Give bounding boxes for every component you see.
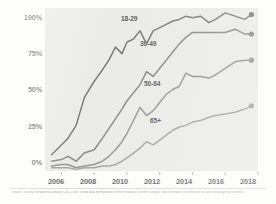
series-lines-group: [52, 13, 252, 169]
series-endpoint-30-49: [249, 31, 254, 36]
series-line-18-29: [52, 13, 252, 155]
series-endpoint-dots-group: [249, 12, 254, 108]
series-endpoint-65-plus: [249, 103, 254, 108]
series-line-30-49: [52, 29, 252, 161]
chart-figure: 100% 75% 50% 25% 0% 2006 2008 2010 2012 …: [0, 0, 276, 204]
series-endpoint-18-29: [249, 12, 254, 17]
series-line-65-plus: [52, 106, 252, 170]
footnote-divider: [10, 188, 266, 189]
chart-plot-svg: [0, 0, 276, 204]
series-endpoint-50-64: [249, 58, 254, 63]
footnote-text: Source: Survey conducted January 3-10, 2…: [12, 191, 264, 198]
x-axis-tick-marks: [61, 172, 258, 175]
